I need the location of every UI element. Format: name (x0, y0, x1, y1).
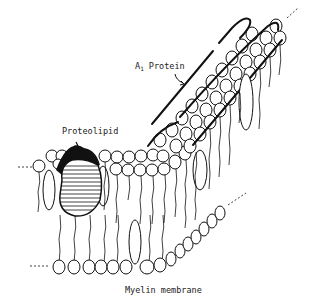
outer-leaflet-heads (33, 146, 191, 176)
membrane-continuation-right-lower (228, 193, 246, 205)
tilted-sheet-heads (154, 19, 286, 153)
membrane-continuation-right-upper (287, 8, 298, 18)
a1-protein-label: A1 Protein (135, 61, 185, 72)
myelin-membrane-diagram: A1 Protein Proteolipid Myelin membrane (0, 0, 309, 303)
proteolipid-label: Proteolipid (62, 126, 118, 136)
proteolipid-pointer-icon (74, 142, 78, 146)
diagram-caption: Myelin membrane (125, 285, 202, 295)
